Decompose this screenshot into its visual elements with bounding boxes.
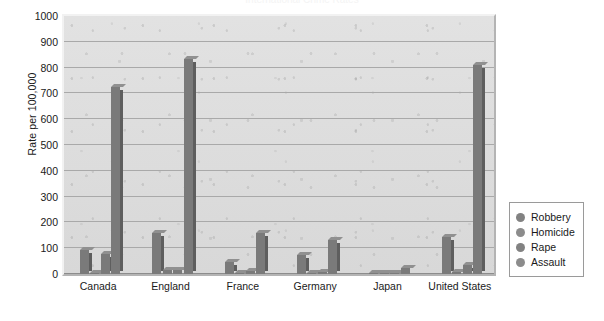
bar-face bbox=[111, 87, 120, 274]
chart-legend: RobberyHomicideRapeAssault bbox=[509, 202, 584, 277]
bar-side bbox=[482, 68, 485, 271]
bar bbox=[307, 273, 316, 275]
bar-group bbox=[80, 16, 121, 274]
bar-side bbox=[306, 258, 309, 271]
bar-top bbox=[111, 84, 126, 87]
legend-swatch-circle-icon bbox=[516, 228, 525, 237]
bar-face bbox=[173, 270, 182, 274]
bar bbox=[111, 87, 120, 274]
bar-face bbox=[80, 250, 89, 275]
bar-top bbox=[152, 230, 167, 233]
bar bbox=[225, 262, 234, 274]
legend-label: Rape bbox=[531, 241, 556, 253]
y-axis-tick-label: 500 bbox=[14, 139, 58, 151]
bar-side bbox=[193, 62, 196, 271]
y-axis-tick-label: 700 bbox=[14, 87, 58, 99]
bar bbox=[442, 237, 451, 274]
bar-top bbox=[225, 259, 240, 262]
bar bbox=[380, 273, 389, 275]
x-axis-tick-label: France bbox=[203, 280, 283, 292]
bar bbox=[390, 273, 399, 275]
bar-face bbox=[256, 233, 265, 274]
bar-group bbox=[297, 16, 338, 274]
bar bbox=[452, 272, 461, 274]
x-axis-tick-label: England bbox=[131, 280, 211, 292]
bar bbox=[256, 233, 265, 274]
legend-item[interactable]: Homicide bbox=[516, 225, 575, 239]
bar bbox=[101, 254, 110, 274]
y-axis-tick-labels: 10009008007006005004003002001000 bbox=[14, 14, 58, 276]
y-axis-tick-label: 1000 bbox=[14, 10, 58, 22]
bar-top bbox=[473, 62, 488, 65]
bar-face bbox=[163, 270, 172, 274]
bar bbox=[401, 268, 410, 274]
bar bbox=[297, 255, 306, 274]
bar-face bbox=[328, 240, 337, 274]
bar bbox=[152, 233, 161, 274]
bar-group bbox=[152, 16, 193, 274]
y-axis-tick-label: 200 bbox=[14, 216, 58, 228]
bar bbox=[173, 270, 182, 274]
legend-item[interactable]: Robbery bbox=[516, 210, 575, 224]
legend-label: Homicide bbox=[531, 226, 575, 238]
bar-face bbox=[318, 272, 327, 274]
bar bbox=[369, 273, 378, 275]
y-axis-tick-label: 300 bbox=[14, 191, 58, 203]
bar-face bbox=[401, 268, 410, 274]
bar-top bbox=[297, 252, 312, 255]
bar-face bbox=[152, 233, 161, 274]
bar-face bbox=[442, 237, 451, 274]
plot-area bbox=[62, 14, 496, 276]
bar bbox=[318, 272, 327, 274]
bars-layer bbox=[64, 16, 494, 274]
bar bbox=[235, 273, 244, 275]
bar-face bbox=[452, 272, 461, 274]
bar-group bbox=[369, 16, 410, 274]
y-axis-tick-label: 0 bbox=[14, 268, 58, 280]
bar-top bbox=[184, 56, 199, 59]
y-axis-tick-label: 600 bbox=[14, 113, 58, 125]
legend-label: Assault bbox=[531, 256, 565, 268]
bar-group bbox=[442, 16, 483, 274]
x-axis-tick-label: United States bbox=[420, 280, 500, 292]
bar-side bbox=[337, 243, 340, 271]
legend-swatch-circle-icon bbox=[516, 258, 525, 267]
bar-face bbox=[473, 65, 482, 274]
bar-face bbox=[297, 255, 306, 274]
legend-swatch-circle-icon bbox=[516, 213, 525, 222]
bar bbox=[246, 271, 255, 274]
legend-item[interactable]: Rape bbox=[516, 240, 575, 254]
x-axis-tick-label: Germany bbox=[275, 280, 355, 292]
x-axis-tick-labels: CanadaEnglandFranceGermanyJapanUnited St… bbox=[62, 280, 496, 320]
bar bbox=[163, 270, 172, 274]
legend-label: Robbery bbox=[531, 211, 571, 223]
y-axis-tick-label: 800 bbox=[14, 62, 58, 74]
bar-face bbox=[246, 271, 255, 274]
y-axis-tick-label: 900 bbox=[14, 36, 58, 48]
x-axis-tick-label: Japan bbox=[348, 280, 428, 292]
bar-side bbox=[89, 253, 92, 272]
bar-face bbox=[184, 59, 193, 274]
legend-swatch-circle-icon bbox=[516, 243, 525, 252]
bar-group bbox=[225, 16, 266, 274]
bar-side bbox=[161, 236, 164, 271]
y-axis-tick-label: 100 bbox=[14, 242, 58, 254]
bar-face bbox=[225, 262, 234, 274]
bar-face bbox=[463, 265, 472, 274]
bar bbox=[80, 250, 89, 275]
bar-side bbox=[451, 240, 454, 271]
crime-rates-bar-chart: International Crime Rates Rate per 100,0… bbox=[0, 0, 604, 321]
y-axis-tick-label: 400 bbox=[14, 165, 58, 177]
bar bbox=[473, 65, 482, 274]
chart-title: International Crime Rates bbox=[0, 0, 604, 5]
legend-item[interactable]: Assault bbox=[516, 255, 575, 269]
bar bbox=[184, 59, 193, 274]
bar-face bbox=[101, 254, 110, 274]
bar-top bbox=[80, 247, 95, 250]
bar-side bbox=[120, 90, 123, 271]
x-axis-tick-label: Canada bbox=[58, 280, 138, 292]
bar-top bbox=[256, 230, 271, 233]
bar bbox=[463, 265, 472, 274]
bar bbox=[90, 273, 99, 275]
bar-side bbox=[265, 236, 268, 271]
